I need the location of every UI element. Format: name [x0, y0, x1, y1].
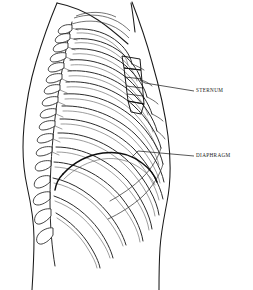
rib-9: [60, 119, 163, 200]
rib-10: [58, 133, 159, 216]
rib-3: [72, 49, 147, 98]
diaphragm-crus: [55, 174, 63, 190]
floating-ribs: [53, 178, 126, 268]
vertebra-8: [42, 97, 58, 106]
ribcage-group: [53, 29, 164, 268]
diaphragm-leader-line: [138, 151, 194, 156]
spinous-processes: [33, 25, 72, 245]
vertebral-column-group: [33, 22, 78, 266]
vertebra-17: [37, 228, 53, 244]
vertebra-13: [35, 161, 51, 171]
vertebra-12: [36, 147, 52, 156]
vertebra-15: [33, 192, 50, 205]
vertebra-11: [37, 134, 53, 143]
sternum-leader-line: [145, 83, 194, 91]
vertebra-7: [44, 85, 60, 94]
vertebra-14: [34, 176, 50, 188]
anatomy-svg-canvas: STERNUM DIAPHRAGM: [0, 0, 253, 290]
sternum-label: STERNUM: [196, 87, 223, 93]
diaphragm-label: DIAPHRAGM: [196, 152, 231, 158]
shoulder-girdle-group: [72, 12, 130, 38]
diaphragm-leader-tick: [132, 151, 138, 157]
anatomy-figure: STERNUM DIAPHRAGM: [0, 0, 253, 290]
vertebra-9: [40, 109, 56, 118]
scapula-border: [76, 12, 116, 17]
vertebra-10: [39, 121, 55, 130]
vertebra-16: [35, 209, 51, 224]
